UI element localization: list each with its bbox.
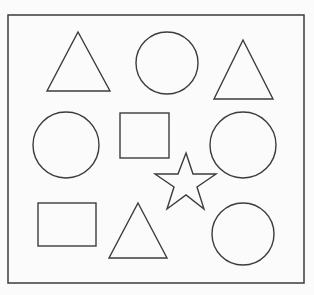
outer-border — [8, 15, 304, 283]
shapes-figure — [0, 0, 314, 295]
shapes-canvas — [0, 0, 314, 295]
